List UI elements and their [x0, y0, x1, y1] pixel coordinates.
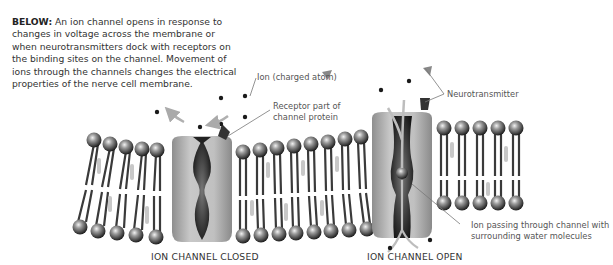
label-ion-passing-1: Ion passing through channel with [471, 220, 609, 231]
lipid-bilayer-middle [236, 130, 375, 244]
label-receptor-1: Receptor part of [273, 101, 340, 112]
lipid-bilayer-right [437, 121, 524, 211]
label-ion: Ion (charged atom) [257, 72, 337, 83]
caption-lead: BELOW: [12, 16, 52, 27]
caption: BELOW: An ion channel opens in response … [12, 16, 237, 90]
ion-channel-closed [172, 124, 232, 242]
bound-neurotransmitter-icon [420, 98, 430, 110]
label-neurotransmitter: Neurotransmitter [447, 89, 519, 100]
title-channel-closed: ION CHANNEL CLOSED [151, 251, 259, 262]
flow-arrows [170, 112, 228, 124]
label-receptor-2: channel protein [273, 112, 338, 123]
ion-in-channel-icon [396, 167, 408, 179]
label-ion-passing-2: surrounding water molecules [471, 231, 592, 242]
lipid-bilayer-left [73, 133, 165, 245]
title-channel-open: ION CHANNEL OPEN [367, 251, 463, 262]
ion-channel-open [372, 98, 432, 252]
